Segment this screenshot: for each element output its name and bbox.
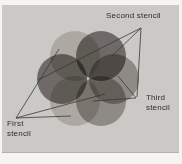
second-stencil-vertex-leader-line [137,28,141,97]
figure-panel: Second stencil Third stencil First stenc… [2,5,179,153]
stencil-rosette-figure [0,0,182,164]
third-stencil-label: Third stencil [146,93,170,113]
third-stencil-circle [76,76,126,126]
first-stencil-label: First stencil [7,119,31,139]
second-stencil-label: Second stencil [106,11,161,21]
